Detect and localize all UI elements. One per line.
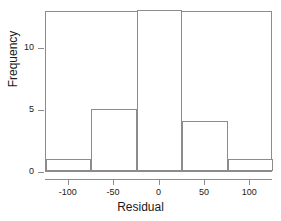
y-axis-title: Frequency [6,0,20,134]
y-tick-label-wrap: 0 [0,167,34,177]
histogram-bar [137,10,182,171]
x-tick-label: -100 [48,187,88,197]
plot-area [45,11,272,172]
x-tick-mark [249,179,250,185]
x-tick-label: 0 [139,187,179,197]
y-tick-mark [38,48,44,49]
x-tick-label: 50 [184,187,224,197]
x-tick-mark [204,179,205,185]
histogram-bar [228,159,273,171]
y-tick-mark [38,172,44,173]
x-tick-mark [68,179,69,185]
y-axis-title-wrapper: Frequency [6,0,20,134]
x-tick-mark [159,179,160,185]
histogram-bar [182,121,227,171]
x-tick-label: -50 [93,187,133,197]
histogram-bar [91,109,136,171]
histogram-figure: 0 5 10 -100 -50 0 50 100 Residual Freque… [0,0,281,221]
histogram-bar [46,159,91,171]
x-tick-label: 100 [229,187,269,197]
y-tick-label: 0 [4,167,34,176]
y-tick-mark [38,110,44,111]
x-tick-mark [113,179,114,185]
x-axis-title: Residual [0,201,281,214]
